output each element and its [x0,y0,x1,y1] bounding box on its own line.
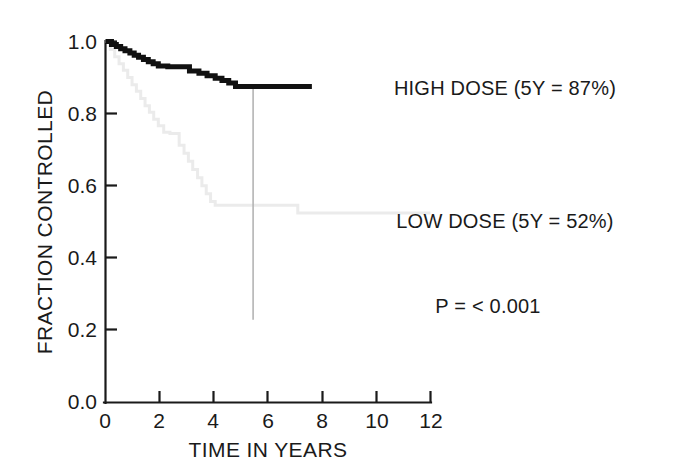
x-tick-label-4: 4 [207,409,219,432]
x-tick-label-8: 8 [316,409,328,432]
y-tick-label-0.4: 0.4 [68,246,98,269]
y-tick-label-0.2: 0.2 [68,318,97,341]
low-dose-annotation: LOW DOSE (5Y = 52%) [396,210,613,232]
x-tick-label-2: 2 [153,409,165,432]
y-tick-label-0.0: 0.0 [68,390,97,413]
x-axis-title: TIME IN YEARS [189,438,348,461]
y-tick-label-0.8: 0.8 [68,102,97,125]
p-value-annotation: P = < 0.001 [435,295,540,317]
y-tick-label-1.0: 1.0 [68,30,97,53]
x-tick-label-6: 6 [262,409,274,432]
figure-background [0,0,695,466]
x-tick-label-10: 10 [365,409,388,432]
x-tick-label-0: 0 [99,409,111,432]
y-axis-title: FRACTION CONTROLLED [33,90,56,354]
kaplan-meier-figure: 1.0 0.8 0.6 0.4 0.2 0.0 0 2 4 6 8 10 12 … [0,0,695,466]
high-dose-annotation: HIGH DOSE (5Y = 87%) [394,77,616,99]
plot-canvas: 1.0 0.8 0.6 0.4 0.2 0.0 0 2 4 6 8 10 12 … [0,0,695,466]
x-tick-label-12: 12 [419,409,442,432]
y-tick-label-0.6: 0.6 [68,174,97,197]
